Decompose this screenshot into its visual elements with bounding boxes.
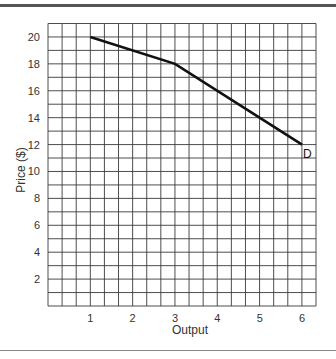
- grid: [48, 24, 316, 307]
- x-tick-label: 6: [299, 312, 305, 324]
- x-tick-label: 5: [257, 312, 263, 324]
- x-tick-label: 1: [87, 312, 93, 324]
- x-axis-label: Output: [172, 323, 209, 337]
- y-tick-label: 2: [34, 273, 40, 285]
- y-tick-label: 18: [28, 58, 40, 70]
- demand-chart: 2468101214161820 123456 D Output Price (…: [0, 0, 336, 359]
- y-tick-label: 4: [34, 246, 40, 258]
- y-tick-label: 6: [34, 219, 40, 231]
- y-tick-label: 16: [28, 85, 40, 97]
- y-tick-label: 8: [34, 192, 40, 204]
- y-tick-label: 14: [28, 112, 40, 124]
- y-tick-label: 20: [28, 31, 40, 43]
- y-axis-ticks: 2468101214161820: [28, 31, 40, 285]
- demand-curve-label: D: [303, 147, 312, 161]
- y-axis-label: Price ($): [14, 147, 28, 192]
- x-tick-label: 4: [214, 312, 220, 324]
- x-tick-label: 2: [130, 312, 136, 324]
- y-tick-label: 12: [28, 139, 40, 151]
- y-tick-label: 10: [28, 165, 40, 177]
